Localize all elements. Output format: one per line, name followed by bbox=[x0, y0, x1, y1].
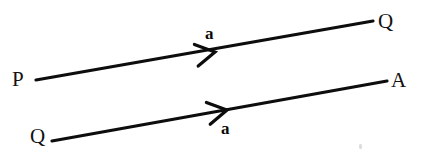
point-label-a: A bbox=[391, 70, 406, 91]
vector-qa-group bbox=[52, 81, 387, 141]
vector-diagram-figure: P Q a Q A a bbox=[0, 0, 425, 157]
point-label-p: P bbox=[12, 69, 24, 90]
point-label-q-bottom: Q bbox=[30, 126, 45, 147]
vector-qa-shaft bbox=[52, 81, 387, 141]
vector-label-a-bottom: a bbox=[221, 120, 230, 137]
vector-label-a-top: a bbox=[205, 25, 214, 42]
scan-speck-artifact bbox=[359, 144, 362, 149]
point-label-q-top: Q bbox=[378, 11, 393, 32]
